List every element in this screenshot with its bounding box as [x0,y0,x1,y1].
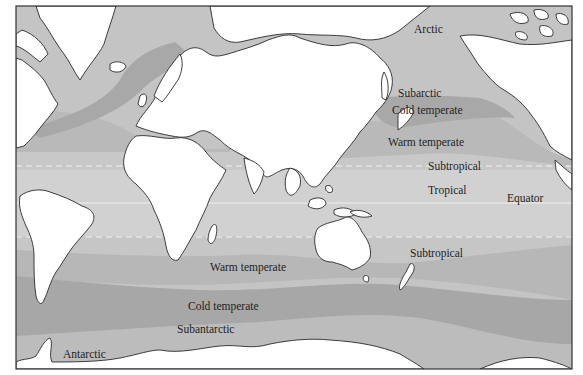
label-warm-temperate-south: Warm temperate [210,262,286,274]
label-cold-temperate-south: Cold temperate [188,301,259,313]
label-tropical: Tropical [428,185,467,197]
label-subantarctic: Subantarctic [177,324,234,336]
label-warm-temperate-north: Warm temperate [388,137,464,149]
label-equator: Equator [507,193,543,205]
label-subarctic: Subarctic [398,88,441,100]
label-arctic: Arctic [414,24,443,36]
label-subtropical-south: Subtropical [410,248,463,260]
label-cold-temperate-north: Cold temperate [392,105,463,117]
label-subtropical-north: Subtropical [428,161,481,173]
world-ocean-zones-map [0,0,583,375]
label-antarctic: Antarctic [63,349,106,361]
